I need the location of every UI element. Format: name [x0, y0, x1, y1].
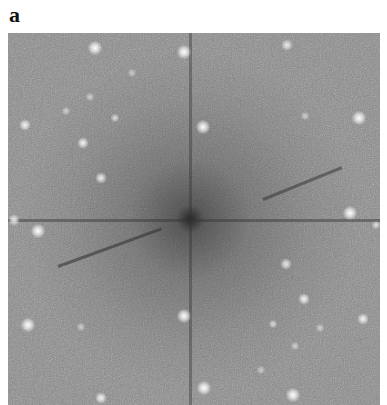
diffraction-spot [257, 366, 266, 375]
diffraction-spot [298, 293, 310, 305]
diffraction-spot [281, 39, 293, 51]
diffraction-spot [177, 309, 192, 324]
diffraction-spot [269, 320, 278, 329]
diffraction-spot [343, 206, 358, 221]
diffraction-spot [77, 137, 89, 149]
vertical-streak [189, 33, 192, 405]
panel-label: a [9, 3, 20, 27]
diffraction-spot [357, 313, 369, 325]
diffraction-spot [21, 318, 36, 333]
diffraction-spot [86, 93, 95, 102]
diffraction-spot [95, 392, 107, 404]
diffraction-spot [286, 388, 301, 403]
diffraction-spot [280, 258, 292, 270]
diffraction-spot [316, 324, 325, 333]
diffraction-spot [301, 112, 310, 121]
diffraction-spot [196, 120, 211, 135]
diffraction-spot [62, 107, 71, 116]
diffraction-spot [128, 69, 137, 78]
diffraction-spot [177, 45, 192, 60]
horizontal-streak [8, 219, 380, 222]
diffraction-spot [19, 119, 31, 131]
diffraction-spot [8, 214, 20, 226]
diffraction-spot [95, 172, 107, 184]
diffraction-spot [197, 381, 212, 396]
diffraction-spot [111, 114, 120, 123]
diffraction-spot [88, 41, 103, 56]
diffraction-spot [31, 224, 46, 239]
diffraction-spot [372, 221, 381, 230]
diffraction-spot [77, 323, 86, 332]
diffraction-spot [291, 342, 300, 351]
diffraction-spot [352, 111, 367, 126]
fft-image [8, 33, 380, 405]
